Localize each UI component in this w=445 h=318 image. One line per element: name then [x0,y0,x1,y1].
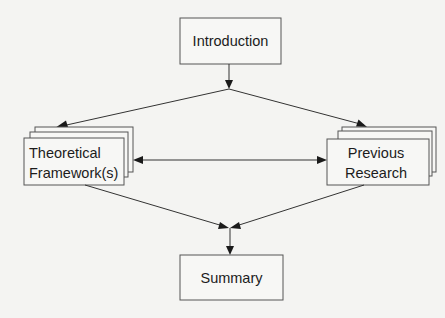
arrowhead-to-previous [356,120,367,128]
node-summary: Summary [180,255,283,300]
arrowhead-to-theoretical-side [133,156,143,164]
edge-theoretical-to-merge [85,185,223,226]
theoretical-label-line2: Framework(s) [29,165,118,181]
edge-junction-to-previous [229,89,364,125]
edge-junction-to-theoretical [62,89,229,126]
flowchart-diagram: Introduction Theoretical Framework(s) Pr… [0,0,445,318]
arrowhead-merge-right [230,222,241,229]
previous-label-line2: Research [345,165,407,181]
theoretical-label-line1: Theoretical [29,145,101,161]
summary-label: Summary [200,270,263,286]
arrowhead-merge-left [218,222,229,229]
arrowhead-to-previous-side [317,156,327,164]
node-introduction: Introduction [180,18,281,64]
previous-label-line1: Previous [348,145,404,161]
node-previous-research: Previous Research [327,127,436,185]
arrowhead-intro-junction [225,80,233,89]
edge-previous-to-merge [236,185,364,226]
arrowhead-to-summary [226,246,234,255]
node-theoretical-framework: Theoretical Framework(s) [24,127,133,185]
introduction-label: Introduction [193,33,269,49]
